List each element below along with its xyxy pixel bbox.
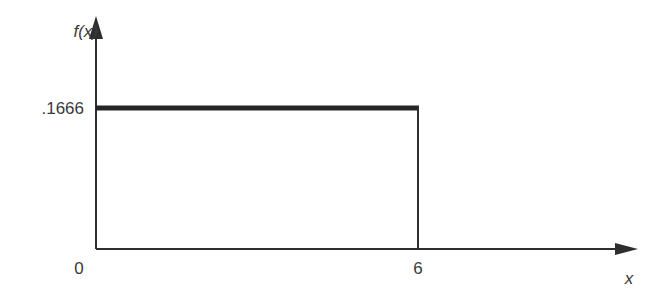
- y-tick-label-1666: .1666: [41, 99, 84, 118]
- x-axis-arrowhead: [615, 243, 638, 255]
- x-tick-label-0: 0: [74, 259, 83, 278]
- y-axis-label: f(x): [73, 22, 98, 41]
- marks: [96, 106, 419, 249]
- axes: [89, 16, 638, 255]
- x-tick-label-6: 6: [413, 259, 422, 278]
- chart-canvas: f(x) x 0 6 .1666: [0, 0, 667, 293]
- x-axis-label: x: [624, 269, 634, 288]
